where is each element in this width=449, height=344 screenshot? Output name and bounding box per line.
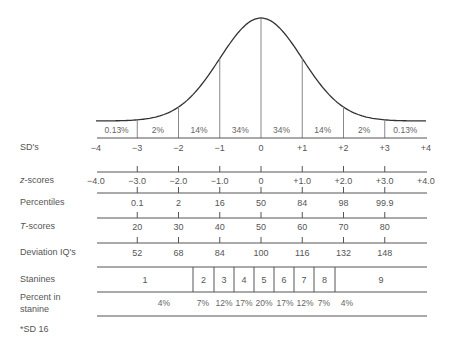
area-percent-label: 34% [232,126,249,135]
deviation-iq-value: 116 [295,249,309,258]
percentile-value: 0.1 [131,199,144,208]
row-label-deviation-iq: Deviation IQ's [20,247,76,258]
percent-in-stanine-value: 17% [235,299,252,308]
z-score-value: +4.0 [417,177,435,186]
stanine-value: 9 [378,276,383,285]
row-label-percent-in: Percent in [20,292,61,303]
z-score-value: +3.0 [376,177,394,186]
percentile-value: 98 [338,199,348,208]
deviation-iq-value: 52 [132,249,142,258]
stanine-value: 4 [241,276,246,285]
t-score-value: 80 [380,223,390,232]
row-label-stanines: Stanines [20,274,55,285]
sd-value: +1 [297,144,307,153]
footnote: *SD 16 [20,324,49,335]
z-score-value: 0 [258,177,263,186]
percent-in-stanine-value: 20% [255,299,272,308]
sd-value: +3 [380,144,390,153]
percentile-value: 50 [256,199,266,208]
sd-value: −1 [215,144,225,153]
z-suffix: -scores [25,175,55,185]
percentile-value: 99.9 [376,199,394,208]
percent-in-stanine-value: 7% [197,299,209,308]
figure-graphics [0,0,449,344]
percentile-value: 84 [297,199,307,208]
row-label-t-scores: T-scores [20,221,55,232]
sd-value: +4 [421,144,431,153]
area-percent-label: 0.13% [393,126,417,135]
percentile-value: 2 [176,199,181,208]
percent-in-stanine-value: 4% [158,299,170,308]
area-percent-label: 14% [314,126,331,135]
sd-value: −4 [91,144,101,153]
t-score-value: 60 [297,223,307,232]
percentile-value: 16 [215,199,225,208]
sd-value: 0 [258,144,263,153]
t-score-value: 40 [215,223,225,232]
t-score-value: 20 [132,223,142,232]
stanine-value: 8 [322,276,327,285]
t-score-value: 50 [256,223,266,232]
stanine-value: 6 [281,276,286,285]
deviation-iq-value: 132 [336,249,351,258]
sd-value: −2 [173,144,183,153]
z-score-value: −1.0 [211,177,229,186]
percent-in-stanine-value: 17% [276,299,293,308]
deviation-iq-value: 68 [173,249,183,258]
area-percent-label: 2% [152,126,164,135]
area-percent-label: 34% [273,126,290,135]
normal-curve-figure: SD's z-scores Percentiles T-scores Devia… [0,0,449,344]
t-score-value: 70 [338,223,348,232]
deviation-iq-value: 84 [215,249,225,258]
z-score-value: −4.0 [87,177,105,186]
deviation-iq-value: 100 [253,249,268,258]
z-score-value: +1.0 [293,177,311,186]
sd-value: −3 [132,144,142,153]
area-percent-label: 2% [358,126,370,135]
stanine-value: 3 [221,276,226,285]
area-percent-label: 0.13% [105,126,129,135]
stanine-value: 1 [142,276,147,285]
area-percent-label: 14% [191,126,208,135]
percent-in-stanine-value: 4% [341,299,353,308]
row-label-stanine: stanine [20,304,49,315]
row-label-percentiles: Percentiles [20,197,65,208]
z-score-value: +2.0 [335,177,353,186]
row-label-z-scores: z-scores [20,175,54,186]
sd-value: +2 [338,144,348,153]
z-score-value: −3.0 [128,177,146,186]
percent-in-stanine-value: 12% [215,299,232,308]
stanine-value: 5 [261,276,266,285]
z-score-value: −2.0 [170,177,188,186]
t-score-value: 30 [173,223,183,232]
stanine-value: 2 [201,276,206,285]
t-suffix: -scores [26,221,56,231]
percent-in-stanine-value: 12% [296,299,313,308]
row-label-sds: SD's [20,142,39,153]
stanine-value: 7 [301,276,306,285]
percent-in-stanine-value: 7% [318,299,330,308]
deviation-iq-value: 148 [377,249,392,258]
